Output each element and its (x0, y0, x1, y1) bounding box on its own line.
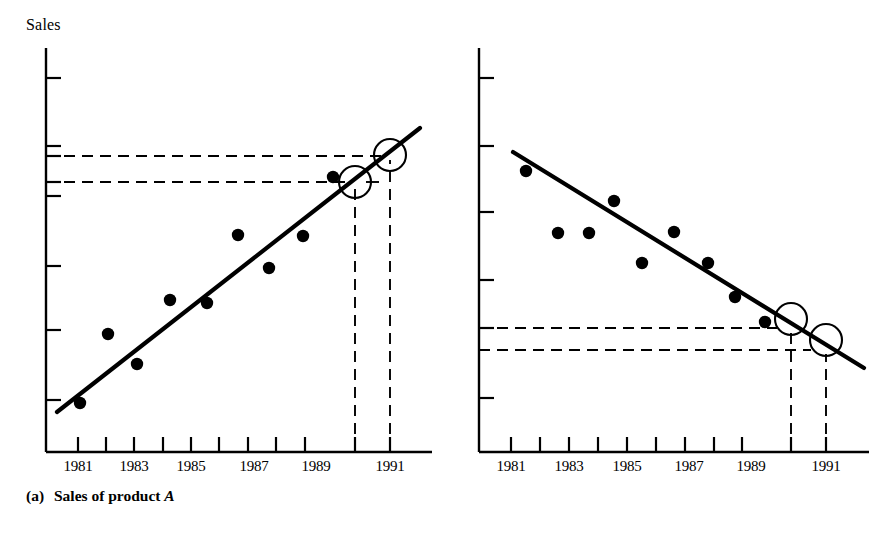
x-axis-ticks-b (511, 437, 826, 452)
x-tick-label: 1991 (811, 458, 840, 474)
chart-svg-a: 1981 1983 1985 1987 1989 1991 (0, 0, 439, 536)
data-point (608, 195, 620, 207)
data-point (232, 229, 244, 241)
x-tick-label: 1981 (496, 458, 525, 474)
x-tick-label: 1981 (63, 458, 92, 474)
caption-index-a: (a) (26, 487, 44, 504)
data-point (327, 171, 339, 183)
data-point (729, 291, 741, 303)
guide-verticals-a (355, 160, 390, 452)
x-tick-label: 1987 (674, 458, 704, 474)
data-point (297, 230, 309, 242)
data-points-a (74, 171, 339, 409)
y-axis-ticks-a (46, 78, 61, 400)
chart-panel-a: Sales (0, 0, 439, 536)
panel-caption-a: (a) Sales of product A (26, 487, 175, 505)
chart-panel-b: Sales (439, 0, 878, 536)
x-tick-label: 1983 (554, 458, 583, 474)
x-tick-label: 1989 (736, 458, 765, 474)
data-point (102, 328, 114, 340)
x-tick-label: 1985 (612, 458, 641, 474)
x-tick-label: 1989 (301, 458, 330, 474)
forecast-circle-1990 (775, 303, 807, 335)
data-point (263, 262, 275, 274)
x-tick-label: 1991 (375, 458, 404, 474)
data-point (636, 257, 648, 269)
chart-svg-b: 1981 1983 1985 1987 1989 1991 (439, 0, 878, 536)
data-point (552, 227, 564, 239)
figure-root: Sales (0, 0, 878, 536)
caption-text-a: Sales of product (54, 487, 161, 504)
data-point (201, 297, 213, 309)
forecast-circle-1991 (374, 139, 406, 171)
data-points-b (520, 165, 771, 328)
x-tick-label: 1987 (239, 458, 269, 474)
data-point (131, 358, 143, 370)
x-axis-ticks-a (78, 437, 390, 452)
data-point (583, 227, 595, 239)
data-point (702, 257, 714, 269)
data-point (164, 294, 176, 306)
x-axis-tick-labels-a: 1981 1983 1985 1987 1989 1991 (63, 458, 404, 474)
data-point (759, 316, 771, 328)
x-tick-label: 1985 (176, 458, 205, 474)
x-tick-label: 1983 (119, 458, 148, 474)
x-axis-tick-labels-b: 1981 1983 1985 1987 1989 1991 (496, 458, 840, 474)
data-point (520, 165, 532, 177)
data-point (668, 226, 680, 238)
data-point (74, 397, 86, 409)
guide-lines-b (479, 328, 811, 350)
caption-product-letter-a: A (164, 487, 174, 504)
